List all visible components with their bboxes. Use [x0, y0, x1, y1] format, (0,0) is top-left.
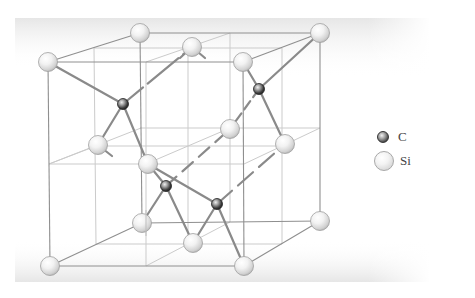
si-atom	[133, 214, 152, 233]
si-atom	[39, 53, 58, 72]
si-atom	[235, 257, 254, 276]
si-atom	[184, 234, 203, 253]
si-atom	[234, 53, 253, 72]
legend: C Si	[374, 125, 411, 173]
background-bands	[15, 18, 430, 282]
si-atom	[276, 135, 295, 154]
si-atom	[311, 212, 330, 231]
carbon-atom-icon	[377, 131, 389, 143]
si-atom	[89, 136, 108, 155]
si-atom	[131, 24, 150, 43]
silicon-atom-icon	[374, 151, 394, 171]
si-atom	[139, 155, 158, 174]
legend-item-silicon: Si	[374, 149, 411, 173]
si-atom	[311, 24, 330, 43]
legend-label-silicon: Si	[400, 153, 411, 169]
c-atom	[118, 99, 129, 110]
legend-item-carbon: C	[374, 125, 411, 149]
si-atom	[183, 38, 202, 57]
c-atom	[161, 181, 172, 192]
legend-label-carbon: C	[398, 129, 407, 145]
si-atom	[221, 120, 240, 139]
c-atom	[212, 199, 223, 210]
si-atom	[41, 257, 60, 276]
c-atom	[254, 84, 265, 95]
